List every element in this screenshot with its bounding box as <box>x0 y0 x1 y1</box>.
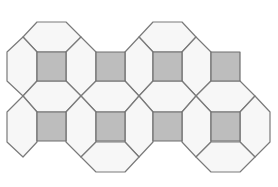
tiling-diagram <box>0 0 278 187</box>
gray-square-tile <box>211 112 240 141</box>
gray-square-tile <box>153 52 182 81</box>
gray-square-tile <box>211 52 240 81</box>
gray-square-tile <box>37 52 66 81</box>
gray-square-tile <box>37 112 66 141</box>
gray-square-tile <box>96 52 125 81</box>
light-hexagon-tiles <box>7 22 270 172</box>
gray-square-tile <box>96 112 125 141</box>
gray-square-tile <box>153 112 182 141</box>
